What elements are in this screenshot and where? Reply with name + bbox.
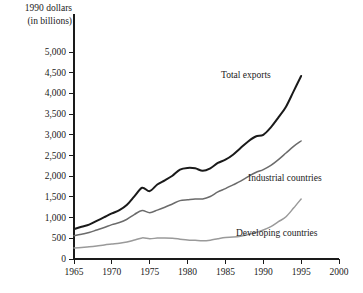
x-tick-label: 1980: [168, 267, 208, 277]
x-tick-label: 1975: [130, 267, 170, 277]
plot-canvas: [0, 0, 363, 293]
x-tick-label: 1970: [92, 267, 132, 277]
y-tick-label: 2,500: [22, 151, 66, 161]
y-tick-label: 1,000: [22, 213, 66, 223]
y-tick-label: 0: [22, 254, 66, 264]
y-tick-label: 3,500: [22, 109, 66, 119]
y-tick-label: 4,500: [22, 68, 66, 78]
series-lines: [74, 76, 301, 248]
series-label-2: Developing countries: [236, 228, 318, 238]
x-tick-label: 1965: [54, 267, 94, 277]
series-line-0: [74, 76, 301, 229]
axis-lines: [74, 14, 339, 259]
y-tick-label: 4,000: [22, 88, 66, 98]
exports-line-chart: 1990 dollars (in billions) 05001,0001,50…: [0, 0, 363, 293]
y-tick-label: 1,500: [22, 192, 66, 202]
series-line-1: [74, 141, 301, 236]
x-tick-label: 1990: [243, 267, 283, 277]
series-label-0: Total exports: [221, 70, 271, 80]
series-label-1: Industrial countries: [248, 173, 322, 183]
x-tick-label: 1985: [205, 267, 245, 277]
x-tick-label: 2000: [319, 267, 359, 277]
y-tick-label: 500: [22, 233, 66, 243]
y-tick-label: 5,000: [22, 47, 66, 57]
x-tick-label: 1995: [281, 267, 321, 277]
series-line-2: [74, 199, 301, 248]
y-tick-label: 2,000: [22, 171, 66, 181]
y-tick-label: 3,000: [22, 130, 66, 140]
